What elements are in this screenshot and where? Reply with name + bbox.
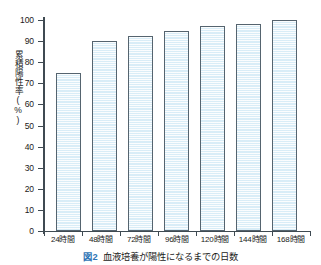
bar bbox=[92, 41, 117, 231]
y-tick-label: 20 bbox=[4, 185, 34, 194]
bar bbox=[236, 24, 261, 231]
y-tick-label: 80 bbox=[4, 58, 34, 67]
bar bbox=[56, 73, 81, 231]
figure-container: 累積陽性率(%) 100 90 80 70 60 50 40 30 20 10 … bbox=[0, 0, 321, 265]
x-tick-label: 48時間 bbox=[82, 236, 120, 245]
plot-area bbox=[44, 20, 310, 231]
y-tick-label: 0 bbox=[4, 227, 34, 236]
figure-caption: 図2血液培養が陽性になるまでの日数 bbox=[0, 252, 321, 263]
bar bbox=[164, 31, 189, 231]
figure-number: 図2 bbox=[83, 252, 97, 262]
x-tick-label: 96時間 bbox=[158, 236, 196, 245]
x-tick-label: 72時間 bbox=[120, 236, 158, 245]
x-tick-label: 144時間 bbox=[234, 236, 272, 245]
bar bbox=[128, 36, 153, 231]
x-tick-label: 120時間 bbox=[196, 236, 234, 245]
x-tick-mark bbox=[310, 231, 311, 236]
y-tick-label: 40 bbox=[4, 143, 34, 152]
x-tick-label: 168時間 bbox=[272, 236, 310, 245]
y-tick-label: 10 bbox=[4, 206, 34, 215]
y-tick-label: 30 bbox=[4, 164, 34, 173]
y-tick-label: 60 bbox=[4, 100, 34, 109]
y-tick-label: 50 bbox=[4, 122, 34, 131]
figure-caption-text: 血液培養が陽性になるまでの日数 bbox=[103, 252, 238, 262]
y-tick-label: 90 bbox=[4, 37, 34, 46]
y-tick-label: 70 bbox=[4, 79, 34, 88]
bar bbox=[200, 26, 225, 231]
y-tick-label: 100 bbox=[4, 16, 34, 25]
x-tick-label: 24時間 bbox=[44, 236, 82, 245]
bar bbox=[272, 20, 297, 231]
